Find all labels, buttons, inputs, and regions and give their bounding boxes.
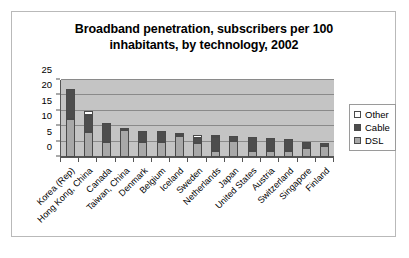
- bar-segment-cable: [302, 142, 311, 148]
- legend-label: Cable: [365, 122, 390, 133]
- bar-segment-dsl: [138, 142, 147, 157]
- bar-group: [229, 80, 238, 157]
- bar-segment-dsl: [120, 130, 129, 157]
- bar-group: [302, 80, 311, 157]
- bar-segment-cable: [248, 137, 257, 151]
- x-axis-labels: Korea (Rep)Hong Kong, ChinaCanadaTaiwan,…: [12, 162, 409, 237]
- bar-segment-dsl: [284, 151, 293, 157]
- plot-area: [60, 80, 334, 158]
- bar-segment-cable: [211, 137, 220, 151]
- figure-frame: Broadband penetration, subscribers per 1…: [11, 11, 396, 237]
- y-tick-label: 0: [47, 141, 52, 152]
- bar-group: [320, 80, 329, 157]
- bar-segment-dsl: [66, 119, 75, 157]
- bar-group: [211, 80, 220, 157]
- bar-segment-cable: [120, 128, 129, 130]
- bar-segment-dsl: [193, 143, 202, 157]
- bar-segment-dsl: [102, 142, 111, 157]
- bar-group: [175, 80, 184, 157]
- bar-group: [157, 80, 166, 157]
- legend-item: Cable: [354, 121, 390, 134]
- bar-segment-other: [84, 111, 93, 115]
- chart-title-line-1: Broadband penetration, subscribers per 1…: [34, 21, 374, 37]
- chart-legend: OtherCableDSL: [349, 104, 396, 151]
- bar-segment-dsl: [248, 151, 257, 157]
- bar-segment-cable: [66, 89, 75, 119]
- bar-group: [120, 80, 129, 157]
- bar-segment-cable: [284, 139, 293, 151]
- bar-segment-cable: [266, 138, 275, 152]
- bars-layer: [61, 80, 334, 157]
- bar-segment-cable: [84, 115, 93, 132]
- legend-swatch-icon: [354, 124, 361, 131]
- bar-segment-cable: [193, 138, 202, 143]
- bar-segment-cable: [157, 131, 166, 141]
- bar-segment-other: [211, 135, 220, 137]
- bar-group: [102, 80, 111, 157]
- bar-segment-cable: [320, 143, 329, 146]
- bar-group: [248, 80, 257, 157]
- chart-title-line-2: inhabitants, by technology, 2002: [34, 37, 374, 53]
- bar-group: [66, 80, 75, 157]
- y-tick-label: 10: [41, 110, 52, 121]
- y-axis: 0510152025: [32, 80, 56, 157]
- bar-segment-dsl: [302, 148, 311, 157]
- legend-swatch-icon: [354, 111, 361, 118]
- bar-segment-cable: [102, 123, 111, 141]
- legend-label: Other: [365, 109, 389, 120]
- bar-segment-dsl: [175, 136, 184, 157]
- bar-segment-cable: [138, 131, 147, 142]
- y-tick-label: 25: [41, 64, 52, 75]
- bar-segment-other: [175, 133, 184, 135]
- bar-segment-dsl: [229, 141, 238, 157]
- y-tick-label: 5: [47, 125, 52, 136]
- bar-group: [284, 80, 293, 157]
- bar-segment-dsl: [211, 151, 220, 157]
- chart-title: Broadband penetration, subscribers per 1…: [34, 21, 374, 53]
- y-tick-label: 15: [41, 94, 52, 105]
- legend-item: Other: [354, 108, 390, 121]
- legend-swatch-icon: [354, 137, 361, 144]
- bar-segment-dsl: [157, 142, 166, 157]
- bar-segment-cable: [229, 136, 238, 141]
- bar-group: [266, 80, 275, 157]
- bar-segment-dsl: [84, 132, 93, 157]
- bar-segment-dsl: [266, 151, 275, 157]
- bar-segment-dsl: [320, 146, 329, 157]
- bar-group: [138, 80, 147, 157]
- bar-group: [84, 80, 93, 157]
- bar-segment-other: [193, 135, 202, 138]
- legend-item: DSL: [354, 134, 390, 147]
- y-tick-label: 20: [41, 79, 52, 90]
- legend-label: DSL: [365, 135, 383, 146]
- bar-group: [193, 80, 202, 157]
